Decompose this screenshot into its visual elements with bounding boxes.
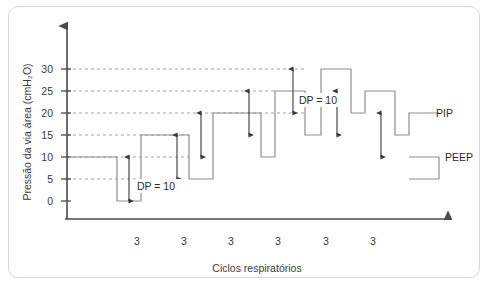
ytick-label-25: 25 xyxy=(41,85,53,97)
figure-card: 30 25 20 15 10 5 0 Pressão da via área (… xyxy=(8,6,480,278)
peep-label: PEEP xyxy=(445,151,473,163)
cycle-label-3: 3 xyxy=(228,235,234,247)
ytick-label-5: 5 xyxy=(47,173,53,185)
axes xyxy=(61,25,449,219)
dp-annotation-center: DP = 10 xyxy=(297,93,345,107)
y-axis-title: Pressão da via área (cmH₂O) xyxy=(21,63,33,200)
cycle-label-5: 3 xyxy=(323,235,329,247)
dp-left-label: DP = 10 xyxy=(137,180,175,192)
dp-center-label: DP = 10 xyxy=(299,94,337,106)
x-tick-labels: 3 3 3 3 3 3 xyxy=(134,235,376,247)
cycle-label-2: 3 xyxy=(181,235,187,247)
cycle-label-4: 3 xyxy=(275,235,281,247)
y-tick-labels: 30 25 20 15 10 5 0 xyxy=(41,63,53,207)
ytick-label-20: 20 xyxy=(41,107,53,119)
gridlines xyxy=(67,69,305,179)
cycle-label-6: 3 xyxy=(370,235,376,247)
ytick-label-15: 15 xyxy=(41,129,53,141)
waveform-tail-peep xyxy=(409,157,439,179)
pip-label: PIP xyxy=(436,107,453,119)
waveform-path xyxy=(69,69,439,201)
ytick-label-0: 0 xyxy=(47,195,53,207)
cycle-label-1: 3 xyxy=(134,235,140,247)
ytick-label-30: 30 xyxy=(41,63,53,75)
airway-pressure-step-chart: 30 25 20 15 10 5 0 Pressão da via área (… xyxy=(9,7,481,279)
pressure-waveform xyxy=(69,69,439,201)
x-axis-title: Ciclos respiratórios xyxy=(212,262,301,274)
dp-annotation-left: DP = 10 xyxy=(135,179,183,193)
ytick-label-10: 10 xyxy=(41,151,53,163)
